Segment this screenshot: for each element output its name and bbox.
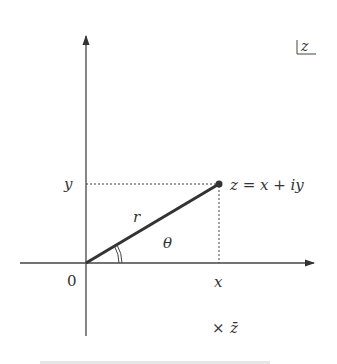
- angle-arc-inner: [114, 246, 119, 263]
- radius-label: r: [133, 208, 141, 226]
- conjugate-label: z̄: [229, 319, 238, 337]
- conjugate-marker: ×: [212, 319, 225, 337]
- origin-label: 0: [67, 272, 77, 290]
- plane-label: z: [300, 38, 309, 54]
- y-label: y: [63, 175, 73, 193]
- complex-plane-diagram: z y 0 x r θ z = x + iy × z̄: [0, 0, 337, 364]
- angle-label: θ: [163, 234, 172, 252]
- point-z: [216, 181, 223, 188]
- radius-vector: [86, 184, 219, 263]
- x-label: x: [214, 273, 223, 291]
- point-label: z = x + iy: [229, 176, 304, 194]
